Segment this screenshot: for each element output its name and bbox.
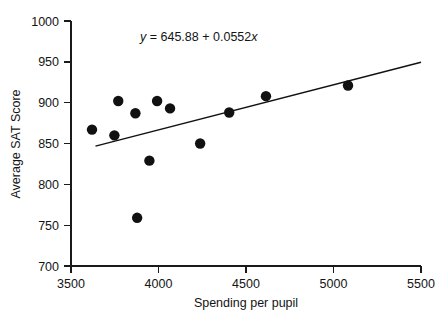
data-point bbox=[152, 96, 162, 106]
scatter-plot-figure: Average SAT Score 1000 950 900 850 800 7… bbox=[0, 0, 445, 313]
data-points-group bbox=[87, 80, 353, 223]
data-point bbox=[224, 107, 234, 117]
data-point bbox=[130, 108, 140, 118]
y-axis-ticks: 1000 950 900 850 800 750 700 bbox=[31, 15, 71, 274]
y-tick-label: 750 bbox=[38, 219, 59, 233]
regression-line bbox=[96, 62, 422, 146]
data-point bbox=[343, 80, 353, 90]
x-tick-label: 5500 bbox=[407, 277, 435, 291]
y-tick-label: 850 bbox=[38, 137, 59, 151]
y-tick-label: 800 bbox=[38, 178, 59, 192]
y-tick-label: 900 bbox=[38, 96, 59, 110]
x-tick-label: 3500 bbox=[57, 277, 85, 291]
data-point bbox=[87, 124, 97, 134]
x-tick-label: 4500 bbox=[232, 277, 260, 291]
data-point bbox=[195, 138, 205, 148]
data-point bbox=[144, 155, 154, 165]
x-axis-title: Spending per pupil bbox=[194, 296, 298, 310]
data-point bbox=[132, 213, 142, 223]
x-axis-ticks: 3500 4000 4500 5000 5500 bbox=[57, 266, 435, 291]
y-tick-label: 700 bbox=[38, 260, 59, 274]
data-point bbox=[261, 91, 271, 101]
x-tick-label: 4000 bbox=[145, 277, 173, 291]
x-tick-label: 5000 bbox=[320, 277, 348, 291]
plot-canvas: Average SAT Score 1000 950 900 850 800 7… bbox=[0, 0, 445, 313]
data-point bbox=[109, 130, 119, 140]
y-tick-label: 950 bbox=[38, 55, 59, 69]
y-tick-label: 1000 bbox=[31, 15, 59, 29]
y-axis-title: Average SAT Score bbox=[9, 89, 23, 198]
data-point bbox=[113, 96, 123, 106]
regression-equation-label: y = 645.88 + 0.0552x bbox=[139, 30, 258, 44]
data-point bbox=[165, 103, 175, 113]
